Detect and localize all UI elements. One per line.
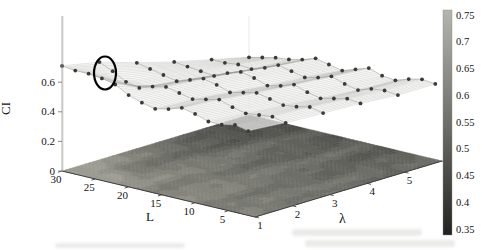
- svg-text:2: 2: [295, 208, 301, 220]
- svg-text:0.7: 0.7: [456, 36, 469, 47]
- svg-text:10: 10: [184, 205, 196, 217]
- mesh-surface-group: [62, 57, 435, 131]
- bleed-through-artifact: [292, 229, 422, 236]
- svg-text:0.75: 0.75: [456, 10, 474, 21]
- svg-text:5: 5: [407, 174, 413, 186]
- svg-text:1: 1: [257, 219, 263, 231]
- svg-text:3: 3: [332, 197, 338, 209]
- svg-text:25: 25: [84, 181, 96, 193]
- svg-text:0.4: 0.4: [456, 197, 470, 208]
- svg-text:0.4: 0.4: [41, 105, 55, 117]
- svg-text:0.45: 0.45: [456, 170, 474, 181]
- svg-text:0: 0: [50, 165, 56, 177]
- svg-text:0.6: 0.6: [456, 90, 469, 101]
- bleed-through-artifact: [55, 243, 185, 248]
- svg-text:4: 4: [369, 185, 375, 197]
- colorbar-group: 0.750.70.650.60.550.50.450.40.35: [443, 10, 474, 236]
- z-axis-label: CI: [0, 102, 12, 115]
- svg-text:5: 5: [220, 213, 226, 225]
- svg-text:0.55: 0.55: [456, 117, 474, 128]
- svg-text:0.35: 0.35: [456, 224, 474, 235]
- svg-text:0.65: 0.65: [456, 63, 474, 74]
- bleed-through-artifact: [305, 240, 455, 247]
- surface-plot-canvas: 3025201510512345600.20.40.6 0.750.70.650…: [0, 0, 485, 250]
- y-axis-label: λ: [339, 212, 346, 226]
- svg-text:0.2: 0.2: [41, 135, 55, 147]
- figure-container: 3025201510512345600.20.40.6 0.750.70.650…: [0, 0, 485, 250]
- svg-text:0.5: 0.5: [456, 143, 469, 154]
- svg-text:15: 15: [150, 197, 162, 209]
- svg-text:0.6: 0.6: [41, 76, 55, 88]
- x-axis-label: L: [146, 210, 154, 223]
- svg-text:20: 20: [117, 189, 129, 201]
